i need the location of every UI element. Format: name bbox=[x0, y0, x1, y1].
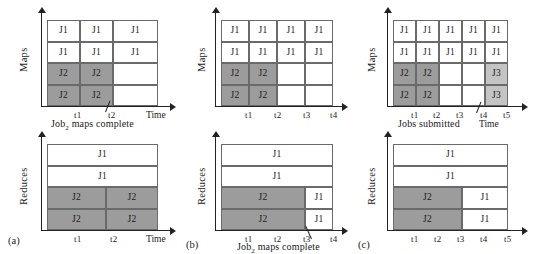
panel-a-maps-grid: J1 J1 J1 J1 J1 J1 J2 J2 J2 J2 bbox=[47, 20, 158, 106]
maps-cell: J1 bbox=[277, 42, 305, 64]
maps-cell: J1 bbox=[439, 42, 462, 64]
reduces-cell: J1 bbox=[47, 166, 158, 188]
maps-cell: J1 bbox=[305, 20, 333, 42]
reduces-cell: J2 bbox=[106, 209, 158, 231]
maps-cell: J1 bbox=[439, 20, 462, 42]
maps-cell: J1 bbox=[485, 42, 508, 64]
panel-b-reduces-x-axis bbox=[215, 230, 343, 231]
panel-a-reduces-y-axis bbox=[41, 136, 42, 231]
maps-cell: J1 bbox=[393, 42, 416, 64]
reduces-cell: J2 bbox=[221, 187, 305, 209]
maps-cell: J1 bbox=[221, 20, 249, 42]
maps-cell: J1 bbox=[462, 42, 485, 64]
maps-cell: J2 bbox=[249, 63, 277, 85]
panel-b-maps-x-axis bbox=[215, 106, 343, 107]
panel-c-reduces-tick-t2: t2 bbox=[434, 234, 441, 244]
panel-b-reduces-tick-t4: t4 bbox=[330, 234, 337, 244]
panel-a-maps-y-axis-label: Maps bbox=[18, 47, 29, 72]
panel-c-reduces-tick-t4: t4 bbox=[480, 234, 487, 244]
reduces-cell: J1 bbox=[221, 144, 333, 166]
panel-b-caption: (b) bbox=[186, 239, 198, 250]
panel-a-reduces-x-axis bbox=[41, 230, 171, 231]
maps-cell-empty bbox=[305, 85, 333, 107]
maps-cell: J3 bbox=[485, 85, 508, 107]
reduces-cell: J2 bbox=[393, 187, 462, 209]
panel-a-reduces-x-axis-name: Time bbox=[146, 234, 166, 244]
panel-c-annotation: Jobs submitted bbox=[398, 118, 460, 129]
reduces-cell: J1 bbox=[305, 209, 333, 231]
maps-cell: J3 bbox=[485, 63, 508, 85]
panel-b-reduces-y-axis bbox=[215, 136, 216, 231]
maps-cell: J1 bbox=[249, 42, 277, 64]
panel-c-reduces-tick-t5: t5 bbox=[504, 234, 511, 244]
maps-cell: J1 bbox=[393, 20, 416, 42]
panel-c-reduces-grid: J1 J1 J2 J1 J2 J1 bbox=[393, 144, 508, 230]
panel-a-reduces-tick-t1: t1 bbox=[74, 234, 81, 244]
panel-c-reduces-x-axis bbox=[387, 230, 523, 231]
maps-cell: J2 bbox=[47, 63, 80, 85]
reduces-cell: J1 bbox=[393, 166, 508, 188]
panel-c-caption: (c) bbox=[358, 239, 370, 250]
maps-cell: J1 bbox=[113, 42, 158, 64]
maps-cell: J2 bbox=[221, 85, 249, 107]
panel-b-maps-tick-t1: t1 bbox=[245, 110, 252, 120]
maps-cell-empty bbox=[305, 63, 333, 85]
maps-cell: J1 bbox=[305, 42, 333, 64]
reduces-cell: J2 bbox=[393, 209, 462, 231]
maps-cell-empty bbox=[277, 63, 305, 85]
panel-c-reduces-tick-t1: t1 bbox=[411, 234, 418, 244]
reduces-cell: J2 bbox=[221, 209, 305, 231]
reduces-cell: J1 bbox=[305, 187, 333, 209]
reduces-cell: J2 bbox=[47, 187, 106, 209]
maps-cell: J2 bbox=[393, 63, 416, 85]
maps-cell: J2 bbox=[221, 63, 249, 85]
panel-c-reduces-y-axis bbox=[387, 136, 388, 231]
panel-a-reduces-tick-t2: t2 bbox=[110, 234, 117, 244]
maps-cell: J2 bbox=[393, 85, 416, 107]
reduces-cell: J1 bbox=[221, 166, 333, 188]
panel-c-maps-x-axis-name: Time bbox=[479, 119, 499, 129]
panel-c-maps-y-axis bbox=[387, 12, 388, 107]
maps-cell: J1 bbox=[416, 42, 439, 64]
maps-cell: J1 bbox=[485, 20, 508, 42]
panel-a-annotation: Job2 maps complete bbox=[51, 118, 134, 132]
maps-cell: J2 bbox=[47, 85, 80, 107]
reduces-cell: J2 bbox=[106, 187, 158, 209]
maps-cell-empty bbox=[439, 63, 462, 85]
panel-b-maps-y-axis-label: Maps bbox=[196, 47, 207, 72]
panel-c-maps-grid: J1 J1 J1 J1 J1 J1 J1 J1 J1 J1 J2 J2 J3 J… bbox=[393, 20, 508, 106]
maps-cell: J1 bbox=[80, 42, 113, 64]
panel-b-maps-grid: J1 J1 J1 J1 J1 J1 J1 J1 J2 J2 J2 J2 bbox=[221, 20, 333, 106]
maps-cell-empty bbox=[439, 85, 462, 107]
maps-cell-empty bbox=[462, 63, 485, 85]
panel-a-caption: (a) bbox=[8, 235, 20, 246]
maps-cell-empty bbox=[113, 85, 158, 107]
reduces-cell: J1 bbox=[462, 187, 508, 209]
panel-b-reduces-grid: J1 J1 J2 J1 J2 J1 bbox=[221, 144, 333, 230]
maps-cell: J2 bbox=[249, 85, 277, 107]
panel-b-maps-y-axis bbox=[215, 12, 216, 107]
panel-c-reduces-tick-t3: t3 bbox=[457, 234, 464, 244]
panel-c-maps-tick-t5: t5 bbox=[503, 110, 510, 120]
figure-root: { "figure": { "title": "Map and Reduce s… bbox=[0, 0, 536, 254]
reduces-cell: J2 bbox=[47, 209, 106, 231]
maps-cell: J1 bbox=[277, 20, 305, 42]
maps-cell: J1 bbox=[249, 20, 277, 42]
panel-c-reduces-y-axis-label: Reduces bbox=[366, 167, 377, 205]
reduces-cell: J1 bbox=[462, 209, 508, 231]
panel-b-annotation: Job2 maps complete bbox=[237, 241, 320, 254]
panel-b-maps-tick-t2: t2 bbox=[274, 110, 281, 120]
maps-cell: J1 bbox=[80, 20, 113, 42]
panel-c-maps-x-axis bbox=[387, 106, 523, 107]
maps-cell: J2 bbox=[416, 85, 439, 107]
panel-a-reduces-grid: J1 J1 J2 J2 J2 J2 bbox=[47, 144, 158, 230]
panel-a-reduces-y-axis-label: Reduces bbox=[18, 167, 29, 205]
reduces-cell: J1 bbox=[47, 144, 158, 166]
maps-cell: J1 bbox=[47, 42, 80, 64]
panel-a-maps-y-axis bbox=[41, 12, 42, 107]
maps-cell-empty bbox=[462, 85, 485, 107]
panel-b-maps-tick-t4: t4 bbox=[330, 110, 337, 120]
panel-a-maps-x-axis-name: Time bbox=[146, 110, 166, 120]
maps-cell: J1 bbox=[221, 42, 249, 64]
maps-cell: J2 bbox=[80, 63, 113, 85]
